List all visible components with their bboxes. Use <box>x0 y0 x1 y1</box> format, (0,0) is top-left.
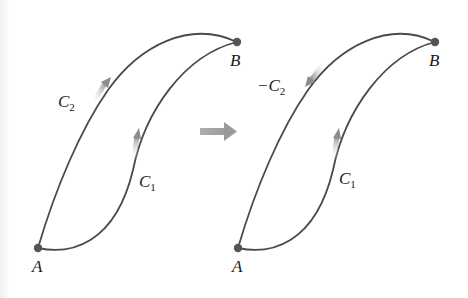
label-a-left: A <box>31 257 43 276</box>
right-arrow-icon <box>200 122 237 141</box>
point-b-right <box>431 38 439 46</box>
label-neg-c2-right: −C2 <box>257 76 285 97</box>
label-b-right: B <box>429 51 440 70</box>
left-panel: A B C2 C1 <box>31 34 241 276</box>
point-b-left <box>233 38 241 46</box>
label-c1-left: C1 <box>139 172 156 193</box>
path-reversal-diagram: A B C2 C1 A B −C2 <box>0 0 468 298</box>
label-b-left: B <box>230 51 241 70</box>
point-a-left <box>34 244 42 252</box>
label-c1-right: C1 <box>339 169 356 190</box>
point-a-right <box>234 244 242 252</box>
direction-arrow-icon <box>305 62 325 87</box>
right-panel: A B −C2 C1 <box>231 34 440 276</box>
label-c2-left: C2 <box>58 92 75 113</box>
label-a-right: A <box>231 257 243 276</box>
